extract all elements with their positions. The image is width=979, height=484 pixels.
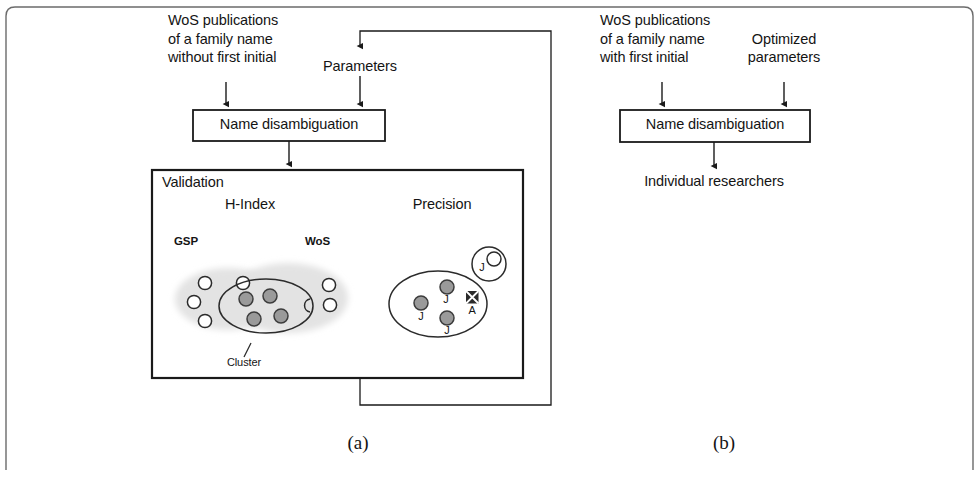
h-index-title: H-Index (225, 196, 275, 212)
precision-marker-label-2: J (444, 324, 449, 336)
panel-a-input-line-1: WoS publications (168, 11, 278, 30)
precision-marker-label-0: J (443, 293, 448, 305)
panel-b-input-line-1: WoS publications (600, 11, 710, 30)
panel-b-input-line-2: of a family name (600, 30, 705, 49)
gsp-label: GSP (174, 235, 198, 247)
crossed-marker-a (466, 291, 479, 304)
parameters-label: Parameters (323, 57, 397, 76)
figure-container: WoS publications of a family name withou… (0, 0, 979, 484)
cluster-label: Cluster (227, 356, 261, 368)
figure-vector-layer (0, 0, 979, 484)
precision-outlier-label: J (479, 261, 484, 273)
panel-b-parameters-line-1: Optimized (752, 30, 816, 49)
process-box-b-label: Name disambiguation (646, 116, 784, 132)
precision-title: Precision (413, 196, 472, 212)
precision-marker-label-3: A (468, 304, 475, 316)
panel-a-input-line-3: without first initial (168, 48, 276, 67)
panel-b-input-line-3: with first initial (600, 48, 688, 67)
validation-title: Validation (162, 174, 224, 190)
precision-marker-label-1: J (418, 310, 423, 322)
wos-label: WoS (305, 235, 330, 247)
panel-b-output-label: Individual researchers (644, 172, 784, 191)
process-box-a-label: Name disambiguation (220, 116, 358, 132)
panel-a-vectors (152, 31, 551, 405)
caption-a: (a) (348, 432, 369, 454)
panel-a-input-line-2: of a family name (168, 30, 273, 49)
caption-b: (b) (713, 432, 735, 454)
panel-b-parameters-line-2: parameters (748, 48, 820, 67)
